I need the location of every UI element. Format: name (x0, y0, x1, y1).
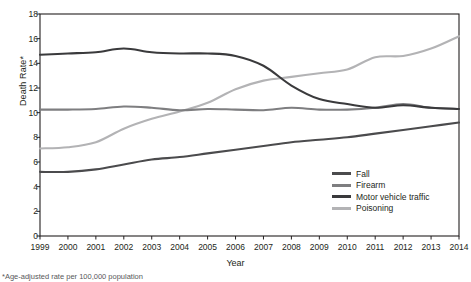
x-tick-label: 2008 (276, 243, 306, 252)
x-tick-label: 2007 (248, 243, 278, 252)
chart-container: Death Rate* 024681012141618 199920002001… (0, 0, 471, 282)
chart-footnote: *Age-adjusted rate per 100,000 populatio… (2, 272, 143, 281)
x-tick-label: 2005 (193, 243, 223, 252)
x-tick-label: 2011 (360, 243, 390, 252)
x-tick-label: 2009 (304, 243, 334, 252)
legend-item[interactable]: Poisoning (332, 203, 430, 215)
legend-label: Motor vehicle traffic (356, 193, 430, 202)
x-tick-label: 2012 (388, 243, 418, 252)
x-tick-label: 2000 (53, 243, 83, 252)
x-tick-label: 2002 (109, 243, 139, 252)
x-tick-label: 2010 (332, 243, 362, 252)
x-axis-title: Year (0, 258, 471, 268)
series-line-motor-vehicle-traffic (40, 49, 459, 109)
legend-item[interactable]: Motor vehicle traffic (332, 191, 430, 203)
x-tick-label: 2013 (416, 243, 446, 252)
plot-area (0, 0, 471, 282)
x-tick-label: 2003 (137, 243, 167, 252)
series-line-fall (40, 123, 459, 173)
legend-label: Fall (356, 170, 370, 179)
legend-swatch-icon (332, 184, 351, 187)
legend-swatch-icon (332, 172, 351, 175)
legend-swatch-icon (332, 207, 351, 210)
x-tick-label: 2006 (221, 243, 251, 252)
legend-item[interactable]: Firearm (332, 180, 430, 192)
x-tick-label: 1999 (25, 243, 55, 252)
legend-label: Firearm (356, 181, 385, 190)
x-tick-label: 2001 (81, 243, 111, 252)
x-tick-label: 2004 (165, 243, 195, 252)
legend-item[interactable]: Fall (332, 168, 430, 180)
chart-legend: FallFirearmMotor vehicle trafficPoisonin… (332, 168, 430, 214)
legend-label: Poisoning (356, 204, 393, 213)
x-tick-label: 2014 (444, 243, 471, 252)
legend-swatch-icon (332, 195, 351, 198)
